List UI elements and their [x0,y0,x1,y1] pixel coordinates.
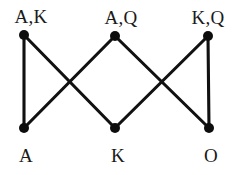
graph-diagram: A,KA,QK,QAKO [0,0,243,175]
node-label-top-middle: A,Q [105,8,138,27]
node-label-top-right: K,Q [192,8,225,27]
graph-node-bottom-middle [110,123,120,133]
graph-node-bottom-right [204,123,214,133]
graph-edge [208,36,209,128]
graph-node-top-right [203,31,213,41]
graph-edges-group [24,35,209,128]
node-label-bottom-left: A [19,146,33,165]
graph-nodes-group [19,30,214,133]
node-label-bottom-middle: K [111,146,125,165]
node-label-bottom-right: O [204,146,218,165]
graph-node-top-left [19,30,29,40]
node-label-top-left: A,K [15,7,48,26]
graph-node-top-middle [110,31,120,41]
graph-node-bottom-left [19,123,29,133]
